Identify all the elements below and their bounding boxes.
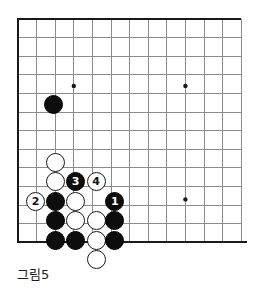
stone-black[interactable] [46, 211, 65, 230]
stone-black[interactable] [44, 95, 63, 114]
stone-white[interactable] [66, 192, 85, 211]
stone-black[interactable] [46, 231, 65, 250]
stone-white[interactable] [87, 231, 106, 250]
star-point-upper-right [183, 84, 187, 88]
move-number-4: 4 [92, 176, 100, 187]
move-number-1: 1 [111, 196, 119, 207]
move-number-2: 2 [32, 196, 40, 207]
stone-black-move-1[interactable]: 1 [105, 192, 124, 211]
go-board[interactable]: 3421 [0, 0, 264, 262]
stone-white[interactable] [87, 211, 106, 230]
star-point-upper-left [72, 84, 76, 88]
stone-black[interactable] [66, 231, 85, 250]
stone-white[interactable] [46, 153, 65, 172]
star-point-lower-right [183, 197, 187, 201]
board-grid [0, 0, 264, 262]
stone-white-move-4[interactable]: 4 [87, 172, 106, 191]
stone-black[interactable] [46, 192, 65, 211]
stone-white-move-2[interactable]: 2 [26, 192, 45, 211]
figure-caption: 그림5 [17, 264, 49, 283]
go-diagram-figure: 3421 그림5 [0, 0, 264, 293]
stone-white[interactable] [87, 250, 106, 269]
move-number-3: 3 [72, 176, 80, 187]
stone-white[interactable] [46, 172, 65, 191]
